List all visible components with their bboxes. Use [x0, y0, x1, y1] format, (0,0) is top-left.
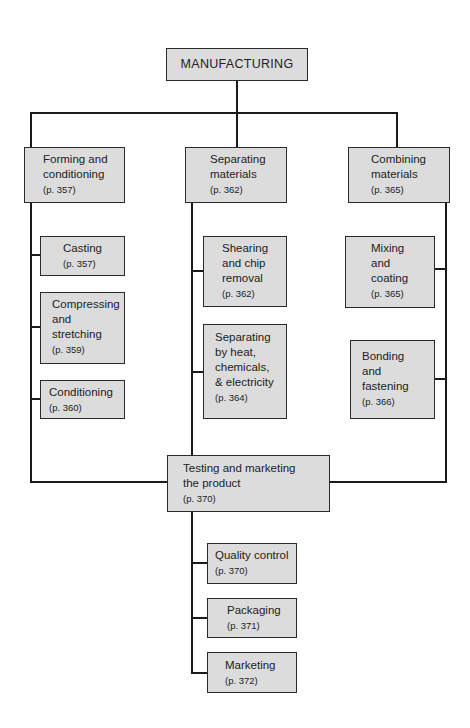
page-reference: (p. 370): [183, 492, 329, 506]
connector-combining-spine: [445, 202, 447, 483]
connector-quality: [191, 562, 208, 564]
connector-bonding: [434, 378, 446, 380]
page-reference: (p. 362): [222, 287, 286, 301]
node-bonding-and-fastening: Bonding and fastening (p. 366): [350, 340, 435, 419]
node-forming-and-conditioning: Forming and conditioning (p. 357): [24, 147, 125, 203]
connector-forming-top: [30, 112, 32, 148]
page-reference: (p. 371): [227, 619, 296, 633]
page-reference: (p. 362): [210, 183, 286, 197]
connector-right-to-final: [329, 481, 447, 483]
node-label: Casting: [63, 241, 124, 256]
node-label: Packaging: [227, 603, 296, 618]
node-compressing-and-stretching: Compressing and stretching (p. 359): [40, 292, 125, 364]
node-label: Separating by heat, chemicals, & electri…: [215, 330, 286, 390]
node-mixing-and-coating: Mixing and coating (p. 365): [345, 236, 435, 308]
node-label: Combining materials: [371, 152, 449, 182]
page-reference: (p. 365): [371, 287, 434, 301]
connector-separating-top: [236, 112, 238, 148]
page-reference: (p. 366): [362, 395, 434, 409]
node-label: Testing and marketing the product: [183, 461, 329, 491]
node-separating-by-heat: Separating by heat, chemicals, & electri…: [203, 324, 287, 419]
connector-top-horizontal: [30, 112, 398, 114]
page-reference: (p. 360): [49, 401, 124, 415]
page-reference: (p. 357): [63, 257, 124, 271]
node-casting: Casting (p. 357): [40, 236, 125, 276]
node-label: Conditioning: [49, 385, 124, 400]
page-reference: (p. 359): [52, 343, 124, 357]
connector-mixing: [434, 268, 446, 270]
node-label: Bonding and fastening: [362, 349, 434, 394]
connector-left-to-final: [30, 481, 168, 483]
node-shearing-and-chip-removal: Shearing and chip removal (p. 362): [203, 236, 287, 307]
node-label: Quality control: [215, 548, 296, 563]
node-label: Shearing and chip removal: [222, 241, 286, 286]
node-quality-control: Quality control (p. 370): [207, 543, 297, 584]
node-packaging: Packaging (p. 371): [207, 598, 297, 638]
node-label: Compressing and stretching: [52, 297, 124, 342]
node-testing-and-marketing: Testing and marketing the product (p. 37…: [167, 455, 330, 512]
connector-root-down: [236, 80, 238, 114]
root-label: MANUFACTURING: [181, 57, 294, 72]
node-label: Marketing: [225, 658, 296, 673]
connector-marketing: [191, 672, 208, 674]
page-reference: (p. 372): [225, 674, 296, 688]
connector-final-spine: [191, 511, 193, 673]
connector-separating-spine: [191, 202, 193, 456]
node-marketing: Marketing (p. 372): [207, 652, 297, 693]
page-reference: (p. 370): [215, 564, 296, 578]
node-conditioning: Conditioning (p. 360): [40, 380, 125, 419]
root-node-manufacturing: MANUFACTURING: [166, 48, 308, 81]
node-label: Separating materials: [210, 152, 286, 182]
connector-combining-top: [396, 112, 398, 148]
connector-packaging: [191, 617, 208, 619]
node-label: Mixing and coating: [371, 241, 434, 286]
node-combining-materials: Combining materials (p. 365): [348, 147, 450, 203]
page-reference: (p. 357): [43, 183, 124, 197]
node-label: Forming and conditioning: [43, 152, 124, 182]
node-separating-materials: Separating materials (p. 362): [185, 147, 287, 203]
connector-forming-spine: [30, 202, 32, 483]
page-reference: (p. 364): [215, 391, 286, 405]
page-reference: (p. 365): [371, 183, 449, 197]
